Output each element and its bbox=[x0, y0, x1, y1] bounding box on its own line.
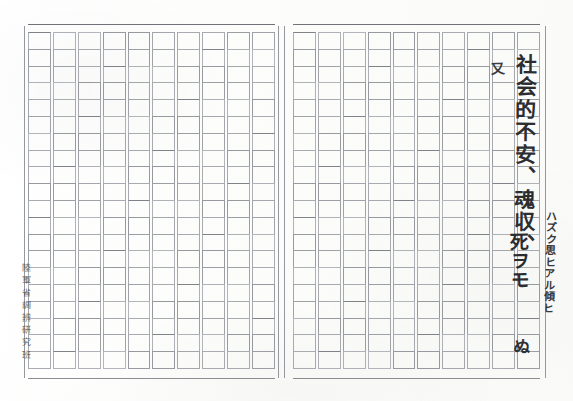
manuscript-cell bbox=[393, 318, 416, 335]
manuscript-cell bbox=[467, 66, 490, 83]
manuscript-cell bbox=[28, 82, 51, 99]
manuscript-cell bbox=[128, 217, 151, 234]
manuscript-cell bbox=[368, 217, 391, 234]
manuscript-cell bbox=[103, 66, 126, 83]
manuscript-cell bbox=[227, 267, 250, 284]
manuscript-cell bbox=[103, 200, 126, 217]
manuscript-cell bbox=[128, 267, 151, 284]
manuscript-cell bbox=[417, 116, 440, 133]
manuscript-cell bbox=[78, 318, 101, 335]
manuscript-cell bbox=[177, 334, 200, 351]
manuscript-cell bbox=[293, 200, 316, 217]
manuscript-cell bbox=[467, 334, 490, 351]
manuscript-cell bbox=[252, 116, 275, 133]
manuscript-cell bbox=[368, 183, 391, 200]
manuscript-cell bbox=[128, 351, 151, 369]
manuscript-cell bbox=[103, 116, 126, 133]
manuscript-cell bbox=[417, 334, 440, 351]
manuscript-cell bbox=[417, 351, 440, 369]
manuscript-cell bbox=[252, 49, 275, 66]
institution-stamp-character: 班 bbox=[21, 349, 30, 361]
manuscript-cell bbox=[368, 284, 391, 301]
manuscript-cell bbox=[152, 334, 175, 351]
manuscript-cell bbox=[293, 116, 316, 133]
manuscript-cell bbox=[28, 66, 51, 83]
manuscript-cell bbox=[393, 334, 416, 351]
manuscript-cell bbox=[417, 82, 440, 99]
manuscript-cell bbox=[393, 49, 416, 66]
manuscript-cell bbox=[368, 334, 391, 351]
manuscript-cell bbox=[252, 334, 275, 351]
manuscript-cell bbox=[442, 334, 465, 351]
manuscript-cell bbox=[252, 200, 275, 217]
manuscript-cell bbox=[252, 318, 275, 335]
manuscript-cell bbox=[128, 284, 151, 301]
manuscript-cell bbox=[227, 351, 250, 369]
manuscript-cell bbox=[368, 66, 391, 83]
manuscript-cell bbox=[252, 183, 275, 200]
manuscript-cell bbox=[252, 150, 275, 167]
manuscript-cell bbox=[318, 166, 341, 183]
manuscript-cell bbox=[152, 32, 175, 49]
manuscript-cell bbox=[128, 32, 151, 49]
sheet-half-right bbox=[293, 24, 540, 379]
manuscript-cell bbox=[128, 301, 151, 318]
manuscript-cell bbox=[318, 116, 341, 133]
manuscript-cell bbox=[393, 351, 416, 369]
manuscript-cell bbox=[28, 133, 51, 150]
manuscript-column bbox=[343, 32, 366, 369]
manuscript-cell bbox=[393, 301, 416, 318]
manuscript-cell bbox=[368, 166, 391, 183]
manuscript-cell bbox=[343, 250, 366, 267]
manuscript-cell bbox=[318, 200, 341, 217]
manuscript-cell bbox=[128, 318, 151, 335]
manuscript-cell bbox=[442, 116, 465, 133]
manuscript-column bbox=[368, 32, 391, 369]
manuscript-cell bbox=[53, 250, 76, 267]
manuscript-cell bbox=[492, 250, 515, 267]
manuscript-cell bbox=[128, 133, 151, 150]
manuscript-cell bbox=[467, 351, 490, 369]
manuscript-cell bbox=[28, 150, 51, 167]
bottom-rule-left-half bbox=[28, 378, 275, 379]
manuscript-cell bbox=[293, 150, 316, 167]
manuscript-cell bbox=[103, 99, 126, 116]
manuscript-cell bbox=[103, 150, 126, 167]
manuscript-cell bbox=[417, 284, 440, 301]
manuscript-cell bbox=[467, 250, 490, 267]
manuscript-cell bbox=[202, 116, 225, 133]
manuscript-cell bbox=[492, 99, 515, 116]
manuscript-cell bbox=[368, 82, 391, 99]
manuscript-cell bbox=[318, 183, 341, 200]
manuscript-cell bbox=[492, 32, 515, 49]
institution-stamp-character: 調 bbox=[21, 299, 30, 312]
manuscript-cell bbox=[28, 183, 51, 200]
manuscript-cell bbox=[517, 334, 540, 351]
manuscript-cell bbox=[28, 116, 51, 133]
manuscript-cell bbox=[318, 267, 341, 284]
manuscript-cell bbox=[417, 49, 440, 66]
manuscript-cell bbox=[368, 49, 391, 66]
manuscript-cell bbox=[103, 217, 126, 234]
manuscript-cell bbox=[152, 217, 175, 234]
manuscript-grid-left bbox=[28, 32, 275, 369]
manuscript-cell bbox=[368, 267, 391, 284]
manuscript-column bbox=[318, 32, 341, 369]
manuscript-column bbox=[293, 32, 316, 369]
manuscript-cell bbox=[53, 133, 76, 150]
manuscript-cell bbox=[252, 82, 275, 99]
manuscript-cell bbox=[28, 200, 51, 217]
manuscript-cell bbox=[417, 133, 440, 150]
manuscript-cell bbox=[467, 166, 490, 183]
manuscript-cell bbox=[517, 32, 540, 49]
manuscript-cell bbox=[417, 66, 440, 83]
manuscript-cell bbox=[417, 217, 440, 234]
manuscript-cell bbox=[442, 150, 465, 167]
manuscript-cell bbox=[293, 99, 316, 116]
manuscript-cell bbox=[202, 166, 225, 183]
manuscript-cell bbox=[467, 318, 490, 335]
manuscript-cell bbox=[227, 234, 250, 251]
manuscript-cell bbox=[177, 284, 200, 301]
manuscript-cell bbox=[78, 284, 101, 301]
manuscript-cell bbox=[393, 99, 416, 116]
